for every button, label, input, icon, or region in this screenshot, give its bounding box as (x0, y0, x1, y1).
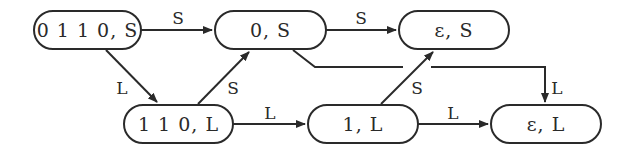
node-label: 1 1 0, L (138, 113, 219, 135)
edge-label-0S-eL: L (551, 78, 562, 98)
edge-0S-eL-part1 (293, 50, 403, 67)
state-node-110-L: 1 1 0, L (123, 104, 234, 144)
edge-label-1L-eS: S (411, 78, 423, 98)
node-label: ε, S (435, 19, 474, 41)
edge-0S-eL-part2 (431, 67, 545, 102)
edge-110L-0S (198, 52, 249, 104)
edge-label-110L-0S: S (227, 78, 239, 98)
state-transition-diagram: 0 1 1 0, S 0, S ε, S 1 1 0, L 1, L ε, L … (0, 0, 634, 155)
state-node-epsilon-S: ε, S (398, 10, 510, 50)
edge-label-1L-eL: L (447, 103, 458, 123)
edge-label-0110S-0S: S (172, 8, 184, 28)
state-node-epsilon-L: ε, L (490, 104, 602, 144)
state-node-0110-S: 0 1 1 0, S (33, 10, 142, 50)
node-label: 0 1 1 0, S (37, 19, 139, 41)
edge-label-0110S-110L: L (116, 78, 127, 98)
edge-label-0S-eS: S (355, 8, 367, 28)
edge-1L-eS (381, 52, 433, 104)
edge-0110S-110L (106, 50, 157, 102)
state-node-0-S: 0, S (214, 10, 327, 50)
node-label: 1, L (343, 113, 384, 135)
node-label: ε, L (527, 113, 566, 135)
state-node-1-L: 1, L (307, 104, 419, 144)
node-label: 0, S (250, 19, 291, 41)
edge-label-110L-1L: L (264, 103, 275, 123)
